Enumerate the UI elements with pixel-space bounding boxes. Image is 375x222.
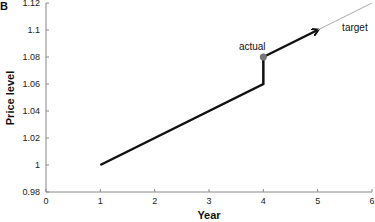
x-tick-label: 0 — [43, 196, 48, 206]
y-tick-label: 1 — [35, 160, 40, 170]
y-tick-label: 1.08 — [22, 52, 40, 62]
x-tick-label: 5 — [315, 196, 320, 206]
x-tick-label: 2 — [152, 196, 157, 206]
y-axis-title: Price level — [4, 71, 16, 125]
y-tick-label: 1.04 — [22, 106, 40, 116]
annotation-actual: actual — [239, 41, 266, 52]
x-tick-label: 6 — [369, 196, 374, 206]
x-tick-label: 4 — [261, 196, 266, 206]
y-tick-label: 0.98 — [22, 187, 40, 197]
plot-area: actualtarget — [100, 3, 372, 165]
series-path — [100, 57, 263, 165]
y-tick-label: 1.02 — [22, 133, 40, 143]
y-tick-label: 1.06 — [22, 79, 40, 89]
x-tick-label: 1 — [98, 196, 103, 206]
x-tick-label: 3 — [206, 196, 211, 206]
x-axis-title: Year — [197, 209, 221, 221]
actual-marker — [260, 54, 267, 61]
price-level-chart: B 01234560.9811.021.041.061.081.11.12 ac… — [0, 0, 375, 222]
y-tick-label: 1.1 — [27, 25, 40, 35]
panel-label: B — [0, 0, 8, 12]
series-actual-arrow — [263, 30, 317, 57]
annotation-target: target — [342, 22, 368, 33]
axes: 01234560.9811.021.041.061.081.11.12 — [22, 0, 374, 206]
y-tick-label: 1.12 — [22, 0, 40, 8]
